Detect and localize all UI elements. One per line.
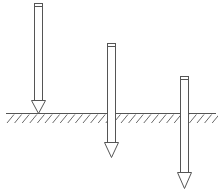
arrow-shaft xyxy=(35,4,43,101)
hatch-stroke xyxy=(91,115,98,124)
arrows xyxy=(32,4,192,189)
hatch-stroke xyxy=(15,115,22,124)
hatch-stroke xyxy=(144,115,151,124)
arrowhead-icon xyxy=(178,173,192,189)
hatch-stroke xyxy=(53,115,60,124)
arrows-ground-diagram xyxy=(0,0,218,196)
hatch-stroke xyxy=(212,115,218,124)
hatch-stroke xyxy=(167,115,174,124)
hatch-stroke xyxy=(75,115,82,124)
hatch-stroke xyxy=(189,115,196,124)
arrow-shaft xyxy=(181,77,189,173)
arrow-3 xyxy=(178,77,192,189)
hatch-stroke xyxy=(83,115,90,124)
arrow-2 xyxy=(105,44,119,158)
hatch-stroke xyxy=(136,115,143,124)
hatch-stroke xyxy=(98,115,105,124)
hatch-stroke xyxy=(121,115,128,124)
hatch-stroke xyxy=(7,115,14,124)
arrow-1 xyxy=(32,4,46,114)
hatch-stroke xyxy=(151,115,158,124)
hatch-stroke xyxy=(159,115,166,124)
hatch-stroke xyxy=(68,115,75,124)
arrowhead-icon xyxy=(105,143,119,158)
diagram-canvas xyxy=(0,0,218,196)
hatch-stroke xyxy=(205,115,212,124)
hatch-stroke xyxy=(129,115,136,124)
hatch-stroke xyxy=(60,115,67,124)
hatch-stroke xyxy=(45,115,52,124)
hatch-stroke xyxy=(37,115,44,124)
arrowhead-icon xyxy=(32,101,46,114)
hatch-stroke xyxy=(22,115,29,124)
hatch-stroke xyxy=(197,115,204,124)
hatch-stroke xyxy=(30,115,37,124)
arrow-shaft xyxy=(108,44,116,143)
